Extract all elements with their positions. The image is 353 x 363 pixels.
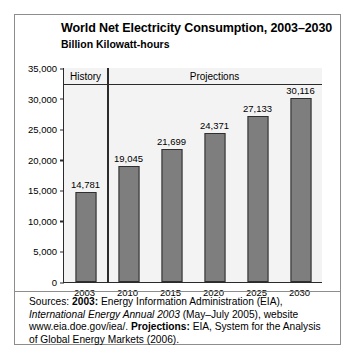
plot-area: 05,00010,00015,00020,00025,00030,00035,0… bbox=[63, 68, 322, 283]
band-label-history: History bbox=[64, 68, 107, 84]
figure-subtitle: Billion Kilowatt-hours bbox=[61, 37, 333, 51]
bar-chart: 05,00010,00015,00020,00025,00030,00035,0… bbox=[15, 55, 342, 303]
bar-slot: 24,371 bbox=[193, 85, 236, 282]
bar-value-label: 19,045 bbox=[114, 153, 143, 164]
bar-value-label: 14,781 bbox=[71, 179, 100, 190]
bar-2020[interactable] bbox=[204, 133, 225, 282]
bar-slot: 30,116 bbox=[279, 85, 322, 282]
bar-slot: 27,133 bbox=[236, 85, 279, 282]
bar-2015[interactable] bbox=[161, 149, 182, 282]
y-axis-tick: 5,000 bbox=[33, 246, 64, 257]
band-label-projections: Projections bbox=[107, 68, 322, 84]
y-axis-tick: 25,000 bbox=[28, 124, 64, 135]
source-note-text: Sources: 2003: Energy Information Admini… bbox=[29, 292, 328, 346]
bar-value-label: 24,371 bbox=[200, 120, 229, 131]
bar-2025[interactable] bbox=[247, 116, 268, 282]
bar-2030[interactable] bbox=[290, 98, 311, 282]
bar-series: 14,78119,04521,69924,37127,13330,116 bbox=[64, 85, 322, 282]
y-axis-tick: 10,000 bbox=[28, 215, 64, 226]
y-axis-tick: 15,000 bbox=[28, 185, 64, 196]
bar-2010[interactable] bbox=[118, 166, 139, 282]
bar-value-label: 27,133 bbox=[243, 103, 272, 114]
bar-value-label: 21,699 bbox=[157, 136, 186, 147]
figure-panel: World Net Electricity Consumption, 2003–… bbox=[14, 14, 341, 345]
heading-block: World Net Electricity Consumption, 2003–… bbox=[61, 21, 333, 51]
y-axis-tick: 20,000 bbox=[28, 154, 64, 165]
band-row: HistoryProjections bbox=[64, 68, 322, 85]
bar-value-label: 30,116 bbox=[286, 85, 314, 96]
bar-slot: 19,045 bbox=[107, 85, 150, 282]
bar-slot: 14,781 bbox=[64, 85, 107, 282]
source-note: Sources: 2003: Energy Information Admini… bbox=[15, 291, 340, 346]
page-title: World Net Electricity Consumption, 2003–… bbox=[61, 21, 333, 36]
bar-2003[interactable] bbox=[75, 192, 96, 282]
bar-slot: 21,699 bbox=[150, 85, 193, 282]
y-axis-tick: 0 bbox=[52, 277, 64, 288]
y-axis-tick: 30,000 bbox=[28, 93, 64, 104]
y-axis-tick: 35,000 bbox=[28, 63, 64, 74]
